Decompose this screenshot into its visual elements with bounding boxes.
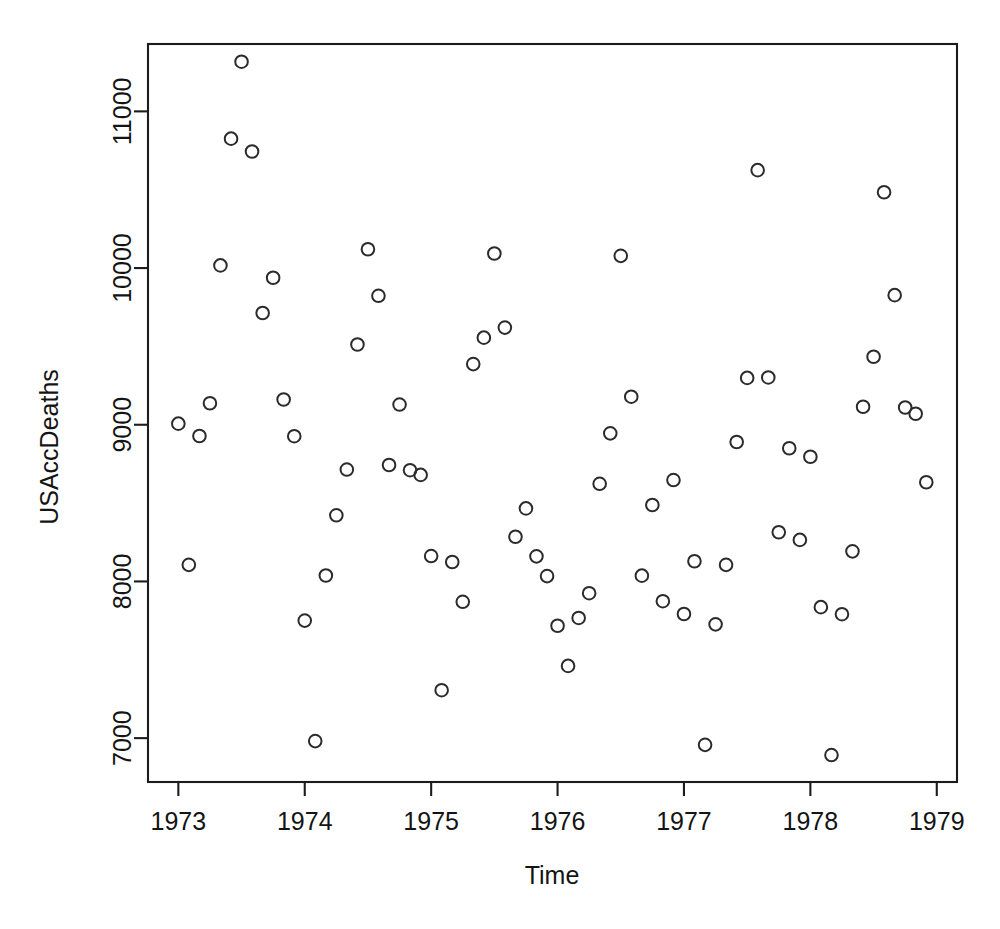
y-axis: 7000800090001000011000 bbox=[108, 78, 148, 766]
usaccdeaths-scatter-plot: 7000800090001000011000 19731974197519761… bbox=[0, 0, 1000, 929]
data-point bbox=[730, 436, 743, 449]
x-axis-title: Time bbox=[525, 861, 580, 889]
data-point bbox=[214, 259, 227, 272]
data-point bbox=[478, 331, 491, 344]
data-point bbox=[699, 739, 712, 752]
data-point bbox=[172, 417, 185, 430]
data-point bbox=[435, 684, 448, 697]
data-point bbox=[688, 555, 701, 568]
data-point bbox=[657, 595, 670, 608]
data-point bbox=[836, 608, 849, 621]
x-tick-label: 1978 bbox=[783, 807, 839, 835]
data-point bbox=[709, 618, 722, 631]
data-point bbox=[520, 502, 533, 515]
data-point bbox=[562, 660, 575, 673]
data-point bbox=[530, 550, 543, 563]
data-point bbox=[298, 614, 311, 627]
data-point bbox=[646, 499, 659, 512]
data-point bbox=[741, 372, 754, 385]
data-point bbox=[267, 271, 280, 284]
data-point bbox=[446, 556, 459, 569]
data-point bbox=[825, 749, 838, 762]
data-point bbox=[193, 430, 206, 443]
x-tick-label: 1975 bbox=[403, 807, 459, 835]
data-point bbox=[467, 358, 480, 371]
y-tick-label: 10000 bbox=[108, 233, 136, 303]
data-point bbox=[320, 569, 333, 582]
data-point bbox=[277, 393, 290, 406]
data-point bbox=[541, 570, 554, 583]
data-point bbox=[678, 608, 691, 621]
data-point bbox=[867, 350, 880, 363]
y-tick-label: 11000 bbox=[108, 78, 136, 146]
data-point bbox=[309, 735, 322, 748]
data-point bbox=[794, 534, 807, 547]
data-point bbox=[204, 397, 217, 410]
data-point-series bbox=[172, 55, 933, 761]
data-point bbox=[636, 569, 649, 582]
data-point bbox=[762, 371, 775, 384]
data-point bbox=[414, 469, 427, 482]
data-point bbox=[909, 407, 922, 420]
data-point bbox=[330, 509, 343, 522]
data-point bbox=[783, 442, 796, 455]
y-tick-label: 8000 bbox=[108, 554, 136, 610]
data-point bbox=[456, 596, 469, 609]
data-point bbox=[772, 526, 785, 539]
data-point bbox=[888, 289, 901, 302]
data-point bbox=[488, 247, 501, 260]
y-tick-label: 7000 bbox=[108, 710, 136, 766]
data-point bbox=[667, 474, 680, 487]
y-tick-label: 9000 bbox=[108, 397, 136, 453]
data-point bbox=[341, 463, 354, 476]
data-point bbox=[235, 55, 248, 68]
data-point bbox=[751, 164, 764, 177]
data-point bbox=[351, 338, 364, 351]
data-point bbox=[393, 398, 406, 411]
data-point bbox=[815, 601, 828, 614]
data-point bbox=[499, 321, 512, 334]
data-point bbox=[846, 545, 859, 558]
data-point bbox=[572, 612, 585, 625]
data-point bbox=[372, 289, 385, 302]
x-tick-label: 1979 bbox=[909, 807, 965, 835]
data-point bbox=[425, 550, 438, 563]
data-point bbox=[183, 559, 196, 572]
x-tick-label: 1977 bbox=[656, 807, 712, 835]
data-point bbox=[920, 476, 933, 489]
data-point bbox=[857, 400, 870, 413]
data-point bbox=[593, 478, 606, 491]
x-axis: 1973197419751976197719781979 bbox=[151, 782, 965, 835]
plot-panel-box bbox=[148, 44, 957, 782]
data-point bbox=[604, 427, 617, 440]
chart-page: 7000800090001000011000 19731974197519761… bbox=[0, 0, 1000, 929]
data-point bbox=[583, 587, 596, 600]
data-point bbox=[614, 250, 627, 263]
data-point bbox=[804, 450, 817, 463]
data-point bbox=[256, 307, 269, 320]
data-point bbox=[625, 390, 638, 403]
data-point bbox=[551, 619, 564, 632]
data-point bbox=[288, 430, 301, 443]
data-point bbox=[225, 132, 238, 145]
x-tick-label: 1973 bbox=[151, 807, 207, 835]
x-tick-label: 1976 bbox=[530, 807, 586, 835]
data-point bbox=[246, 145, 259, 158]
y-axis-title: USAccDeaths bbox=[35, 369, 63, 525]
data-point bbox=[383, 459, 396, 472]
data-point bbox=[720, 559, 733, 572]
x-tick-label: 1974 bbox=[277, 807, 333, 835]
data-point bbox=[878, 186, 891, 199]
data-point bbox=[362, 243, 375, 256]
data-point bbox=[509, 530, 522, 543]
